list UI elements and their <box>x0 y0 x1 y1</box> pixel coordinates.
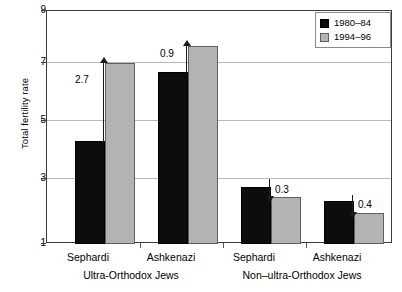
annotation-label-0-9: 0.9 <box>160 49 174 59</box>
group-label-ultra-orthodox: Ultra-Orthodox Jews <box>46 269 216 281</box>
gridline-7 <box>47 62 391 63</box>
legend-swatch-light-icon <box>320 33 329 42</box>
x-tick-group-1-2-sep <box>140 243 141 248</box>
plot-area: 2.7 0.9 0.3 0.4 1980–84 1994–96 <box>46 10 392 243</box>
x-tick-group-3-4-sep <box>306 243 307 248</box>
legend-swatch-dark-icon <box>320 19 329 28</box>
x-label-uo-sephardi: Sephardi <box>44 251 132 263</box>
annotation-label-2-7: 2.7 <box>75 75 89 85</box>
annotation-arrow-down-0-3 <box>269 179 270 196</box>
legend-item-1980-84: 1980–84 <box>320 16 386 30</box>
bar-1994-96-nuo-ashkenazi <box>354 213 384 244</box>
bar-1994-96-nuo-sephardi <box>271 197 301 244</box>
annotation-label-0-3: 0.3 <box>275 185 289 195</box>
x-label-nuo-sephardi: Sephardi <box>210 251 298 263</box>
legend-item-1994-96: 1994–96 <box>320 30 386 44</box>
legend-label-1980-84: 1980–84 <box>334 18 371 28</box>
bar-1980-84-uo-ashkenazi <box>158 72 188 244</box>
annotation-label-0-4: 0.4 <box>358 200 372 210</box>
x-label-uo-ashkenazi: Ashkenazi <box>127 251 215 263</box>
annotation-arrow-up-0-9 <box>186 46 187 73</box>
gridline-5 <box>47 120 391 121</box>
annotation-arrow-up-2-7 <box>103 63 104 142</box>
legend: 1980–84 1994–96 <box>315 12 391 48</box>
annotation-arrow-down-0-4 <box>352 195 353 212</box>
x-tick-group-2-3-sep <box>223 243 224 248</box>
x-label-nuo-ashkenazi: Ashkenazi <box>293 251 381 263</box>
bar-1994-96-uo-sephardi <box>105 63 135 244</box>
bar-1980-84-uo-sephardi <box>75 141 105 244</box>
bar-1994-96-uo-ashkenazi <box>188 46 218 244</box>
legend-label-1994-96: 1994–96 <box>334 32 371 42</box>
chart-figure: Total fertility rate 9 7 5 3 1 <box>0 0 402 292</box>
group-label-non-ultra-orthodox: Non–ultra-Orthodox Jews <box>212 269 392 281</box>
y-tick-1 <box>41 243 46 244</box>
bar-1980-84-nuo-ashkenazi <box>324 201 354 244</box>
